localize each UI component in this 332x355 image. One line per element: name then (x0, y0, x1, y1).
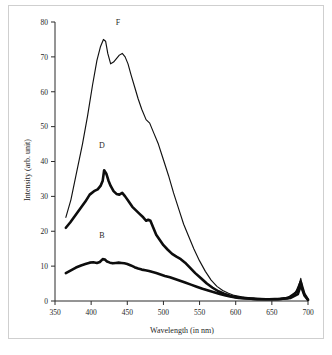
y-tick-label: 80 (41, 18, 49, 27)
series-annotations: FDB (99, 18, 121, 240)
y-axis-title: Intensity (arb. unit) (23, 139, 32, 201)
label-F: F (116, 18, 121, 27)
x-tick-label: 500 (158, 308, 170, 317)
x-tick-label: 700 (302, 308, 314, 317)
x-tick-label: 550 (194, 308, 206, 317)
x-tick-label: 600 (230, 308, 242, 317)
y-tick-label: 70 (41, 53, 49, 62)
tick-labels: 0102030405060708035040045050055060065070… (41, 18, 314, 317)
x-tick-label: 400 (86, 308, 98, 317)
data-curves (66, 39, 308, 300)
y-tick-label: 30 (41, 192, 49, 201)
x-tick-label: 450 (122, 308, 134, 317)
y-tick-label: 60 (41, 88, 49, 97)
y-tick-label: 50 (41, 122, 49, 131)
x-tick-label: 350 (49, 308, 61, 317)
y-tick-label: 0 (44, 297, 48, 306)
y-tick-label: 20 (41, 227, 49, 236)
x-tick-label: 650 (266, 308, 278, 317)
label-B: B (99, 231, 104, 240)
y-tick-label: 40 (41, 157, 49, 166)
spectra-chart: 0102030405060708035040045050055060065070… (0, 0, 332, 355)
figure-container: 0102030405060708035040045050055060065070… (0, 0, 332, 355)
y-tick-label: 10 (41, 262, 49, 271)
x-axis-title: Wavelength (in nm) (150, 326, 214, 335)
label-D: D (99, 141, 105, 150)
